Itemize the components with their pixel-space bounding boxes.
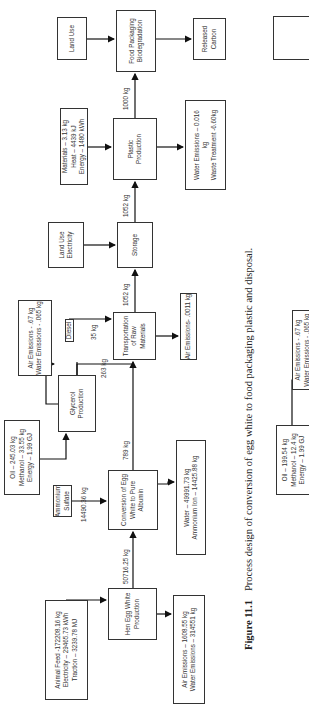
node-text: Water – 49991.73 kg xyxy=(183,468,192,526)
node-text: Production xyxy=(77,388,86,418)
node-animal-feed-inputs: Animal Feed -172208.16 kg Electricity – … xyxy=(45,600,88,700)
node-plastic-production: Plastic Production xyxy=(113,118,157,180)
node-land-use-electricity: Land Use Electricity xyxy=(48,222,84,268)
node-text: Electricity xyxy=(66,232,75,259)
node-text: Animal Feed -172208.16 kg xyxy=(54,611,63,688)
node-text: Heat – 4439 kJ xyxy=(70,125,79,167)
node-text: kg xyxy=(201,142,210,149)
node-text: Carbon xyxy=(210,29,219,50)
node-text: Plastic xyxy=(127,140,136,159)
node-text: Traction – 3239.78 MJ xyxy=(71,619,80,681)
node-text: Energy – 1.99 GJ xyxy=(26,433,35,482)
node-text: Oil – 245.03 kg xyxy=(9,436,18,478)
node-text: Transportation xyxy=(122,316,131,356)
node-transportation: Transportation of Raw Materials xyxy=(113,312,156,360)
node-text: Glycerol xyxy=(69,392,78,415)
node-text: Oil – 199.54 kg xyxy=(281,439,290,481)
flow-label-storage: 1052 kg xyxy=(122,195,129,217)
node-text: Ammonium xyxy=(54,485,63,517)
node-text: Energy – 1480 kWh xyxy=(78,119,87,174)
node-text: Materials xyxy=(139,323,148,349)
node-text: Albumin xyxy=(137,489,146,512)
node-text: Water Emissions - .065 kg xyxy=(303,313,310,386)
node-materials-heat-energy: Materials – 3.13 kg Heat – 4439 kJ Energ… xyxy=(60,108,88,185)
node-text: Energy – 1.99 GJ xyxy=(298,436,307,485)
node-plastic-waste: Water Emissions – 0.016 kg Waste Treatme… xyxy=(185,100,226,190)
node-text: Methanol – 12.4 kg xyxy=(290,433,299,487)
node-text: Land Use xyxy=(68,25,77,52)
figure-caption: Figure 11.1Process design of conversion … xyxy=(243,248,254,650)
node-storage: Storage xyxy=(117,222,153,268)
node-transport-emissions: Air Emissions- .0011 kg xyxy=(180,293,197,360)
node-text: Hen Egg White xyxy=(124,593,133,635)
rotated-figure-page: Animal Feed -172208.16 kg Electricity – … xyxy=(0,0,309,704)
next-node-oil-methanol-energy: Oil – 199.54 kg Methanol – 12.4 kg Energ… xyxy=(276,425,309,495)
node-food-packaging-biodegradation: Food Packaging Biodegradation xyxy=(116,10,156,72)
node-ammonium-sulfate: Ammonium Sulfate xyxy=(53,485,72,517)
node-text: Methanol – 33.55 kg xyxy=(18,429,27,486)
figure-number: Figure 11.1 xyxy=(243,600,254,650)
node-text: Diesel xyxy=(65,322,74,340)
next-node-partial xyxy=(273,16,309,60)
node-text: White to Pure xyxy=(129,481,138,519)
node-text: Waste Treatment -6.60kg xyxy=(210,110,219,180)
node-conversion-to-albumin: Conversion of Egg White to Pure Albumin xyxy=(108,470,158,530)
node-text: Electricity – 29465.73 kWh xyxy=(62,613,71,688)
node-text: Production xyxy=(135,134,144,164)
node-hen-emissions: Air Emissions – 1608.55 kg Water Emissio… xyxy=(173,595,205,704)
flow-label-albumin: 789 kg xyxy=(122,441,129,460)
flow-label-transport: 1052 kg xyxy=(122,284,129,306)
node-land-use: Land Use xyxy=(57,17,87,60)
node-text: Land Use xyxy=(58,232,67,259)
flow-label-plastic: 1000 kg xyxy=(122,88,129,110)
flow-label-ammonium-sulfate: 14490.36 kg xyxy=(80,487,87,522)
node-text: Production xyxy=(133,599,142,629)
node-text: Materials – 3.13 kg xyxy=(61,120,70,173)
node-glycerol-emissions: Air Emissions - .67 kg Water Emissions -… xyxy=(18,300,52,376)
node-text: Ammonium Ion – 14425.88 kg xyxy=(191,456,200,540)
node-glycerol-production: Glycerol Production xyxy=(58,375,96,432)
node-text: Air Emissions - .67 kg xyxy=(27,308,36,369)
flow-label-egg-white: 50716.25 kg xyxy=(122,549,129,584)
node-text: Air Emissions – 1608.55 kg xyxy=(181,611,190,687)
figure-caption-text: Process design of conversion of egg whit… xyxy=(243,248,254,591)
node-text: Food Packaging xyxy=(128,18,137,64)
next-node-glycerol-emissions: Air Emissions - .67 kg Water Emissions -… xyxy=(292,310,309,390)
node-text: Biodegradation xyxy=(136,20,145,62)
flow-label-glycerol: 263 kg xyxy=(100,359,107,378)
node-text: Water Emissions - .065 kg xyxy=(35,301,44,374)
node-text: Air Emissions- .0011 kg xyxy=(184,294,193,360)
node-text: Sulfate xyxy=(63,491,72,511)
node-hen-egg-white-production: Hen Egg White Production xyxy=(108,588,157,640)
node-oil-methanol-energy: Oil – 245.03 kg Methanol – 33.55 kg Ener… xyxy=(4,420,40,495)
node-text: Water Emissions – 0.016 xyxy=(193,110,202,180)
node-text: Storage xyxy=(131,234,140,256)
node-text: Air Emissions - .67 kg xyxy=(294,320,303,381)
node-released-carbon: Released Carbon xyxy=(193,18,226,60)
node-text: Conversion of Egg xyxy=(120,474,129,526)
node-text: Water Emissions – 314551 kg xyxy=(189,608,198,691)
node-text: Released xyxy=(201,26,210,53)
node-diesel: Diesel xyxy=(65,319,74,342)
flow-label-diesel: 35 kg xyxy=(90,325,97,340)
node-text: of Raw xyxy=(130,326,139,346)
node-conversion-waste: Water – 49991.73 kg Ammonium Ion – 14425… xyxy=(176,440,206,555)
